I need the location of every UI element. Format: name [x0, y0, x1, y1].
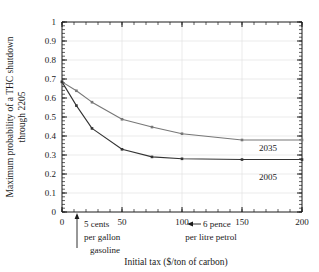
data-point	[151, 156, 154, 159]
data-point	[91, 127, 94, 130]
y-axis-title-line1: Maximum probability of a THC shutdown	[5, 36, 15, 197]
x-axis-title: Initial tax ($/ton of carbon)	[124, 257, 227, 268]
y-tick-label: 0.8	[45, 55, 57, 65]
petrol-annot-line1: 6 pence	[203, 219, 231, 229]
data-point	[121, 148, 124, 151]
y-tick-label: 0.5	[45, 112, 57, 122]
series-label-2035: 2035	[259, 143, 278, 153]
data-point	[121, 118, 124, 121]
y-tick-label: 0.7	[45, 74, 57, 84]
x-tick-label: 50	[118, 217, 128, 227]
x-tick-label: 150	[235, 217, 249, 227]
gasoline-annot-line3: gasoline	[90, 245, 120, 255]
x-tick-label: 200	[295, 217, 309, 227]
series-label-2005: 2005	[259, 172, 278, 182]
data-point	[181, 158, 184, 161]
y-tick-label: 0.2	[45, 169, 56, 179]
y-tick-label: 0.6	[45, 93, 57, 103]
data-point	[301, 139, 304, 142]
data-point	[301, 158, 304, 161]
y-tick-label: 0.1	[45, 188, 56, 198]
data-point	[75, 104, 78, 107]
data-point	[151, 126, 154, 129]
gasoline-annot-line2: per gallon	[84, 232, 121, 242]
y-tick-label: 0.9	[45, 36, 57, 46]
chart-figure: 00.10.20.30.40.50.60.70.80.91 0501001502…	[0, 0, 319, 272]
y-tick-label: 0.4	[45, 131, 57, 141]
x-tick-label: 100	[175, 217, 189, 227]
y-axis-title-line2: through 2205	[17, 91, 27, 142]
data-point	[75, 89, 78, 92]
y-tick-label: 0.3	[45, 150, 57, 160]
chart-svg: 00.10.20.30.40.50.60.70.80.91 0501001502…	[0, 0, 319, 272]
y-tick-label: 0	[52, 207, 57, 217]
y-tick-label: 1	[52, 17, 57, 27]
data-point	[61, 81, 64, 84]
data-point	[181, 132, 184, 135]
data-point	[241, 158, 244, 161]
data-point	[241, 139, 244, 142]
petrol-annot-line2: per litre petrol	[185, 232, 237, 242]
x-tick-label: 0	[60, 217, 65, 227]
data-point	[91, 101, 94, 104]
gasoline-annot-line1: 5 cents	[84, 219, 110, 229]
